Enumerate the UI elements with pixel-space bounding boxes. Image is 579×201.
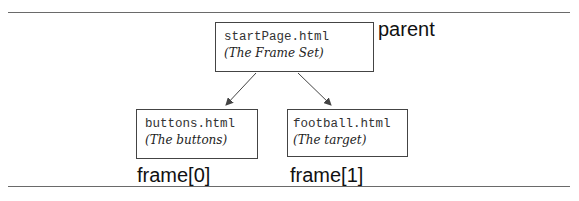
child-description: (The target) <box>293 132 402 148</box>
child-node-buttons: buttons.html (The buttons) <box>136 109 258 159</box>
arrow-to-buttons <box>226 73 256 105</box>
parent-file: startPage.html <box>224 29 365 45</box>
parent-label: parent <box>378 18 435 41</box>
parent-node: startPage.html (The Frame Set) <box>215 22 374 72</box>
child-file: football.html <box>293 116 402 132</box>
child-file: buttons.html <box>145 116 249 132</box>
child-description: (The buttons) <box>145 132 249 148</box>
child-node-football: football.html (The target) <box>287 109 408 157</box>
child-label-frame0: frame[0] <box>137 164 210 187</box>
child-label-frame1: frame[1] <box>290 164 363 187</box>
arrow-to-football <box>298 73 331 105</box>
parent-description: (The Frame Set) <box>224 45 365 61</box>
